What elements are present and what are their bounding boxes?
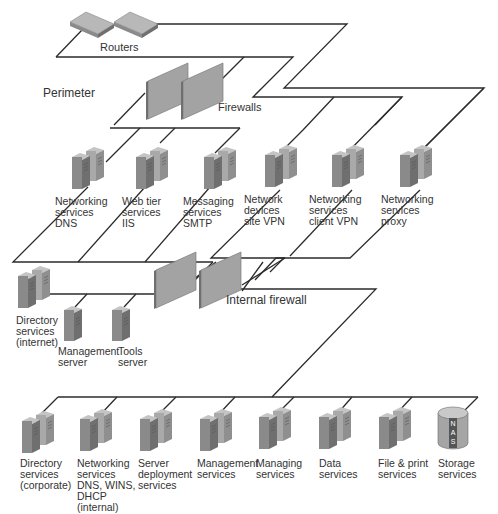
- server-pair-icon[interactable]: [80, 409, 114, 451]
- routers-label: Routers: [100, 42, 139, 53]
- dmz-server-label: Directory services (internet): [16, 315, 58, 348]
- link-top-iis: [160, 128, 175, 143]
- nas-icon[interactable]: N A S: [437, 406, 469, 450]
- internal-server-label: Managing services: [256, 458, 302, 480]
- perimeter-zone-label: Perimeter: [43, 86, 95, 100]
- internal-server-label: Directory services (corporate): [20, 458, 71, 491]
- server-pair-icon[interactable]: [379, 407, 413, 449]
- link-router-loop: [56, 57, 402, 125]
- server-pair-icon[interactable]: [136, 147, 170, 189]
- internal-server-label: Networking services DNS, WINS, DHCP (int…: [77, 458, 135, 513]
- dmz-server-label: Tools server: [118, 346, 147, 368]
- server-pair-icon[interactable]: [22, 411, 56, 453]
- server-pair-icon[interactable]: [400, 145, 434, 187]
- internal-server-label: Data services: [319, 458, 358, 480]
- internal-server-label: Management services: [197, 458, 258, 480]
- dmz-server-label: Management server: [58, 346, 119, 368]
- link-fw1-down: [114, 93, 145, 125]
- link-top-dns: [106, 128, 140, 162]
- server-pair-icon[interactable]: [204, 147, 238, 189]
- server-icon[interactable]: [112, 305, 132, 341]
- server-pair-icon[interactable]: [72, 147, 106, 189]
- nas-badge-n: N: [450, 420, 455, 427]
- internal-server-label: Server deployment services: [138, 458, 192, 491]
- router-icon[interactable]: [70, 10, 114, 38]
- perimeter-server-label: Messaging services SMTP: [183, 196, 234, 229]
- internal-server-label: File & print services: [378, 458, 428, 480]
- router-icon[interactable]: [114, 10, 158, 38]
- nas-badge-s: S: [451, 438, 456, 445]
- link-fw2-up: [222, 57, 244, 79]
- link-proxy: [420, 88, 484, 152]
- perimeter-server-label: Networking services proxy: [381, 194, 434, 227]
- server-pair-icon[interactable]: [18, 266, 52, 308]
- link-ifw2-up-b: [242, 258, 285, 285]
- perimeter-server-label: Web tier services IIS: [122, 196, 161, 229]
- link-ifw2-up: [242, 262, 263, 291]
- network-connection-lines: [0, 0, 498, 514]
- server-icon[interactable]: [64, 305, 84, 341]
- perimeter-server-label: Networking services client VPN: [309, 194, 362, 227]
- server-pair-icon[interactable]: [259, 407, 293, 449]
- perimeter-server-label: Network devices site VPN: [244, 194, 285, 227]
- server-pair-icon[interactable]: [140, 409, 174, 451]
- server-pair-icon[interactable]: [265, 145, 299, 187]
- firewalls-label: Firewalls: [218, 102, 261, 113]
- nas-badge-a: A: [451, 429, 456, 436]
- internal-firewall-label: Internal firewall: [226, 293, 307, 307]
- server-pair-icon[interactable]: [332, 145, 366, 187]
- server-pair-icon[interactable]: [200, 409, 234, 451]
- perimeter-server-label: Networking services DNS: [55, 196, 108, 229]
- internal-server-label: Storage services: [438, 458, 477, 480]
- firewall-icon[interactable]: [154, 252, 198, 310]
- server-pair-icon[interactable]: [319, 407, 353, 449]
